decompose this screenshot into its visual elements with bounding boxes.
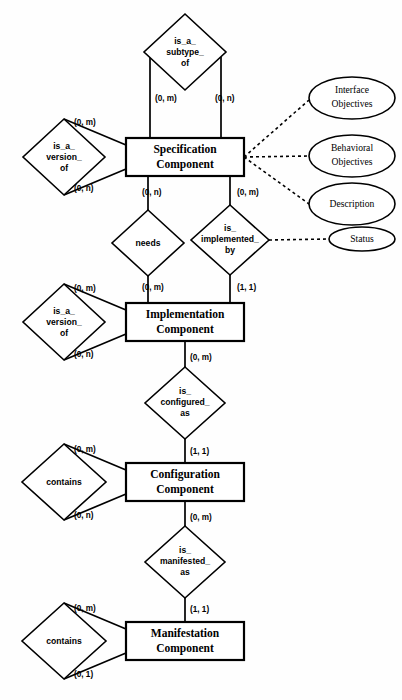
- relationship-label-line-1: is_a_: [53, 141, 75, 151]
- entity-label-line-2: Component: [156, 158, 214, 171]
- entity-label-line-1: Configuration: [150, 468, 220, 481]
- relationship-label-line-2: version_: [46, 152, 82, 162]
- relationship-label-line-2: manifested_: [160, 556, 210, 566]
- relationship-label-line-3: as: [180, 567, 190, 577]
- relationship-is-implemented-by[interactable]: is_ implemented_ by: [191, 205, 269, 275]
- cardinality-manifested-top: (0, m): [190, 513, 212, 522]
- entity-label-line-1: Specification: [153, 143, 217, 156]
- relationship-label-line-2: version_: [46, 317, 82, 327]
- cardinality-needs-bottom: (0, m): [142, 283, 164, 292]
- cardinality-needs-top: (0, n): [142, 188, 162, 197]
- entity-label-line-1: Implementation: [146, 308, 225, 321]
- relationship-label-line-3: of: [60, 163, 68, 173]
- entity-label-line-2: Component: [156, 642, 214, 655]
- cardinality-implemented-by-bottom: (1, 1): [237, 283, 256, 292]
- cardinality-configured-bottom: (1, 1): [190, 447, 209, 456]
- relationship-label-line-1: contains: [46, 477, 82, 487]
- attribute-label-line-1: Behavioral: [331, 142, 373, 153]
- cardinality-contains-manifest-bottom: (0, 1): [74, 670, 93, 679]
- relationship-label-line-1: is_: [179, 386, 191, 396]
- relationship-label-line-3: as: [180, 408, 190, 418]
- entity-implementation-component[interactable]: Implementation Component: [126, 303, 244, 341]
- cardinality-contains-config-bottom: (0, n): [74, 511, 94, 520]
- relationship-contains-configuration[interactable]: contains: [22, 444, 106, 520]
- attribute-description[interactable]: Description: [309, 183, 395, 225]
- relationship-contains-manifestation[interactable]: contains: [22, 603, 106, 679]
- cardinality-configured-top: (0, m): [190, 353, 212, 362]
- entity-manifestation-component[interactable]: Manifestation Component: [126, 622, 244, 660]
- line-attr-interface-objectives: [244, 100, 309, 157]
- attribute-label-line-1: Description: [330, 198, 375, 209]
- relationship-is-configured-as[interactable]: is_ configured_ as: [145, 367, 225, 439]
- relationship-is-a-subtype-of[interactable]: is_a_ subtype_ of: [144, 14, 226, 90]
- er-diagram-svg: is_a_ subtype_ of is_a_ version_ of need…: [0, 0, 402, 700]
- relationship-needs[interactable]: needs: [112, 210, 184, 276]
- attribute-interface-objectives[interactable]: Interface Objectives: [309, 77, 395, 119]
- attribute-lines: [244, 100, 329, 240]
- attribute-label-line-2: Objectives: [331, 98, 372, 109]
- cardinality-manifested-bottom: (1, 1): [190, 605, 209, 614]
- relationship-label-line-1: contains: [46, 636, 82, 646]
- entity-label-line-2: Component: [156, 483, 214, 496]
- line-attr-status: [269, 239, 329, 240]
- relationship-label-line-2: configured_: [160, 397, 209, 407]
- er-diagram-canvas: is_a_ subtype_ of is_a_ version_ of need…: [0, 0, 402, 700]
- relationship-label-line-3: of: [181, 58, 189, 68]
- attribute-label-line-2: Objectives: [331, 156, 372, 167]
- line-attr-behavioral-objectives: [244, 156, 309, 157]
- cardinality-subtype-right: (0, n): [215, 94, 235, 103]
- cardinality-implemented-by-top: (0, m): [237, 188, 259, 197]
- relationship-is-manifested-as[interactable]: is_ manifested_ as: [145, 526, 225, 598]
- cardinality-version-impl-top: (0, m): [74, 284, 96, 293]
- entity-specification-component[interactable]: Specification Component: [126, 138, 244, 176]
- relationship-label-line-2: implemented_: [201, 234, 259, 244]
- relationship-label-line-3: by: [225, 245, 235, 255]
- entity-configuration-component[interactable]: Configuration Component: [126, 463, 244, 501]
- relationship-label-line-1: is_: [224, 223, 236, 233]
- cardinality-contains-manifest-top: (0, m): [74, 604, 96, 613]
- entity-label-line-1: Manifestation: [151, 627, 220, 639]
- relationship-label-line-3: of: [60, 328, 68, 338]
- entity-label-line-2: Component: [156, 323, 214, 336]
- relationship-label-line-1: is_a_: [53, 306, 75, 316]
- attribute-label-line-1: Interface: [335, 84, 369, 95]
- relationship-label-line-1: needs: [136, 238, 161, 248]
- cardinality-version-impl-bottom: (0, n): [74, 350, 94, 359]
- cardinality-contains-config-top: (0, m): [74, 445, 96, 454]
- cardinality-version-spec-top: (0, m): [74, 118, 96, 127]
- attribute-label-line-1: Status: [350, 233, 374, 244]
- attribute-behavioral-objectives[interactable]: Behavioral Objectives: [309, 135, 395, 177]
- relationship-diamonds: is_a_ subtype_ of is_a_ version_ of need…: [22, 14, 269, 679]
- cardinality-subtype-left: (0, m): [155, 94, 177, 103]
- cardinality-version-spec-bottom: (0, n): [74, 184, 94, 193]
- relationship-label-line-2: subtype_: [166, 47, 204, 57]
- attribute-status[interactable]: Status: [329, 227, 395, 251]
- relationship-label-line-1: is_a_: [174, 36, 196, 46]
- attribute-ellipses: Interface Objectives Behavioral Objectiv…: [309, 77, 395, 251]
- relationship-label-line-1: is_: [179, 545, 191, 555]
